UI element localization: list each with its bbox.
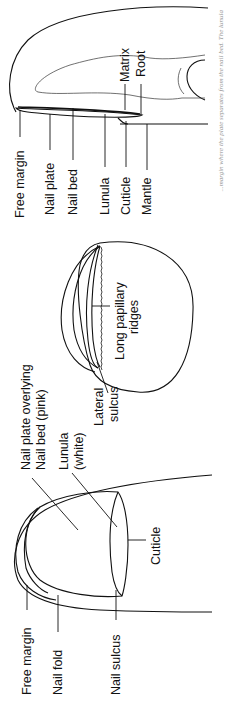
- label-matrix: Matrix: [118, 47, 132, 82]
- figure-caption: ...margin where the plate separates from…: [217, 10, 225, 192]
- label-nail-sulcus: Nail sulcus: [109, 635, 123, 695]
- leader-lunula-white: [72, 473, 117, 527]
- label-nail-bed: Nail bed: [66, 169, 80, 215]
- label-long-papillary-ridges-2: ridges: [127, 300, 141, 334]
- lunula-arc: [110, 492, 122, 596]
- label-lunula-white-2: (white): [72, 432, 86, 470]
- joint-curve-inner: [178, 68, 184, 94]
- transverse-view: Long papillary ridges Lateral sulcus: [61, 242, 193, 426]
- free-margin-curve: [24, 507, 48, 593]
- label-mantle: Mantle: [140, 177, 154, 215]
- leader-nail-plate-overlying: [32, 478, 78, 530]
- nail-arc-outer: [61, 246, 100, 372]
- label-free-margin: Free margin: [13, 151, 27, 218]
- finger-outline: [10, 7, 208, 112]
- joint-curve: [187, 60, 205, 100]
- label-cuticle: Cuticle: [119, 177, 133, 215]
- label-long-papillary-ridges-1: Long papillary: [113, 281, 127, 360]
- papillary-ridges: [101, 247, 102, 370]
- nail-anatomy-figure: Free margin Nail plate Nail bed Lunula C…: [0, 0, 227, 705]
- label-cuticle-dorsal: Cuticle: [149, 527, 163, 565]
- label-lunula-white-1: Lunula: [57, 432, 71, 470]
- label-nail-plate: Nail plate: [43, 163, 57, 215]
- label-nail-plate-overlying-1: Nail plate overlying: [19, 364, 33, 470]
- label-lateral-sulcus-2: sulcus: [107, 387, 121, 422]
- label-free-margin-dorsal: Free margin: [20, 628, 34, 695]
- label-nail-plate-overlying-2: Nail bed (pink): [34, 389, 48, 470]
- cuticle-fold: [118, 118, 128, 124]
- label-lunula: Lunula: [98, 177, 112, 215]
- label-nail-fold: Nail fold: [51, 650, 65, 695]
- sagittal-view: Free margin Nail plate Nail bed Lunula C…: [10, 7, 208, 218]
- nail-plate-inner-2: [92, 246, 100, 367]
- label-lateral-sulcus-1: Lateral: [92, 388, 106, 426]
- label-root: Root: [134, 50, 148, 77]
